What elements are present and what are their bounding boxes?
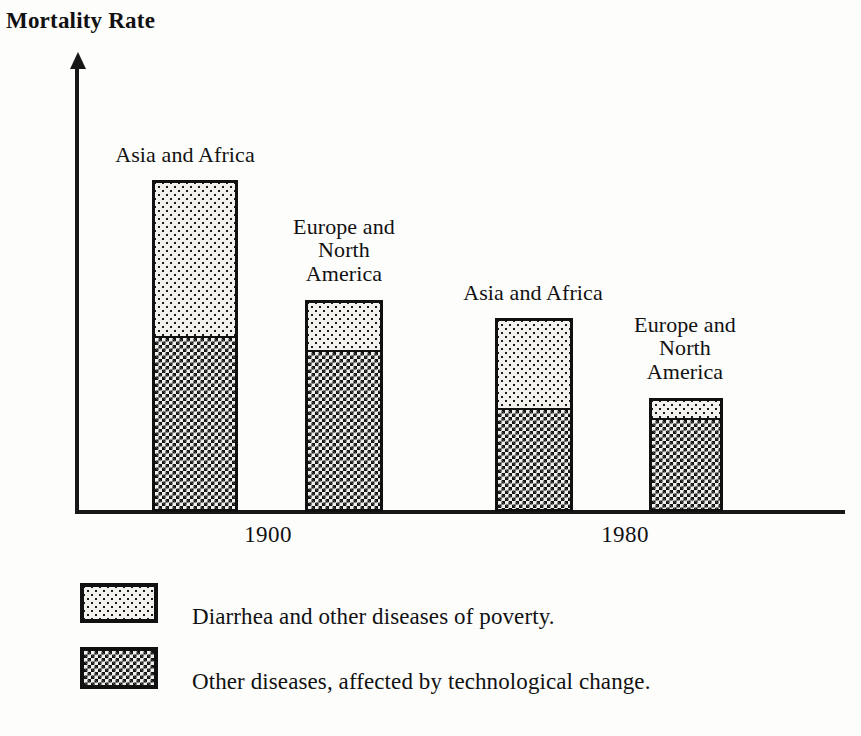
y-axis-line [75, 66, 79, 514]
bar-segment-poverty-diseases [305, 300, 383, 352]
bar-segment-other-diseases [152, 338, 238, 512]
bar-segment-poverty-diseases [495, 318, 573, 410]
bar-segment-other-diseases [305, 352, 383, 512]
bar-segment-poverty-diseases [152, 180, 238, 338]
legend-label-other-diseases: Other diseases, affected by technologica… [192, 669, 651, 695]
bar-1980-asia-africa [495, 318, 573, 512]
legend-label-poverty-diseases: Diarrhea and other diseases of poverty. [192, 604, 555, 630]
mortality-rate-stacked-bar-chart: Mortality Rate Asia and Africa Europe an… [0, 0, 861, 736]
bar-label-1980-europe-north-america: Europe and North America [604, 313, 766, 383]
legend-swatch-poverty-diseases [80, 583, 158, 623]
x-tick-label-1980: 1980 [562, 522, 688, 548]
y-axis-title: Mortality Rate [6, 8, 155, 34]
legend-swatch-other-diseases [80, 647, 158, 689]
bar-1900-asia-africa [152, 180, 238, 512]
bar-label-1980-asia-africa: Asia and Africa [452, 281, 614, 304]
bar-segment-poverty-diseases [649, 398, 723, 420]
bar-segment-other-diseases [649, 420, 723, 512]
bar-segment-other-diseases [495, 410, 573, 512]
bar-1980-europe-north-america [649, 398, 723, 512]
bar-label-1900-asia-africa: Asia and Africa [105, 143, 265, 166]
bar-1900-europe-north-america [305, 300, 383, 512]
bar-label-1900-europe-north-america: Europe and North America [263, 215, 425, 285]
x-tick-label-1900: 1900 [205, 522, 331, 548]
